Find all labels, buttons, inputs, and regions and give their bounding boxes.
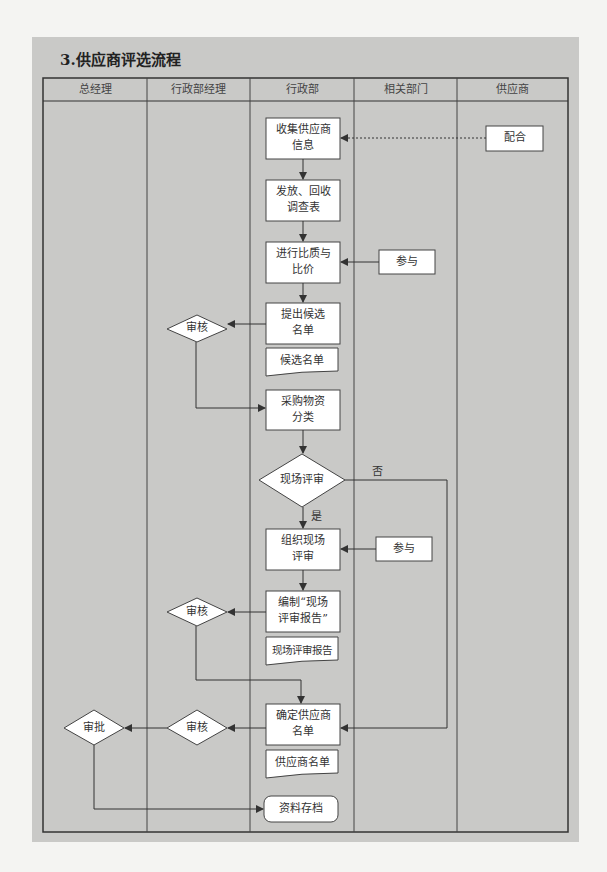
lane-header-admin-dept: 行政部 bbox=[250, 80, 354, 100]
node-classify: 采购物资分类 bbox=[266, 394, 340, 426]
edge-label-no: 否 bbox=[367, 464, 387, 480]
node-participate-2: 参与 bbox=[376, 541, 432, 557]
node-survey: 发放、回收调查表 bbox=[266, 184, 340, 216]
decision-onsite-review: 现场评审 bbox=[259, 472, 345, 488]
node-shortlist: 提出候选名单 bbox=[266, 307, 340, 339]
decision-approve: 审批 bbox=[64, 720, 124, 736]
terminal-archive: 资料存档 bbox=[264, 801, 338, 817]
edge-label-yes: 是 bbox=[306, 509, 326, 525]
node-write-report: 编制“现场评审报告” bbox=[266, 595, 340, 627]
decision-review-2: 审核 bbox=[167, 604, 227, 620]
node-collect-info: 收集供应商信息 bbox=[266, 122, 340, 154]
node-cooperate: 配合 bbox=[486, 130, 543, 146]
decision-review-1: 审核 bbox=[167, 320, 227, 336]
node-confirm-list: 确定供应商名单 bbox=[266, 708, 340, 740]
decision-review-3: 审核 bbox=[167, 720, 227, 736]
node-organize-review: 组织现场评审 bbox=[266, 533, 340, 565]
node-participate-1: 参与 bbox=[379, 254, 435, 270]
lane-header-admin-manager: 行政部经理 bbox=[147, 80, 250, 100]
doc-supplier-list: 供应商名单 bbox=[266, 755, 338, 771]
doc-shortlist: 候选名单 bbox=[266, 353, 338, 369]
node-compare: 进行比质与比价 bbox=[266, 246, 340, 278]
lane-header-supplier: 供应商 bbox=[457, 80, 568, 100]
doc-review-report: 现场评审报告 bbox=[264, 642, 340, 658]
lane-header-general-manager: 总经理 bbox=[43, 80, 147, 100]
lane-header-related-dept: 相关部门 bbox=[354, 80, 457, 100]
